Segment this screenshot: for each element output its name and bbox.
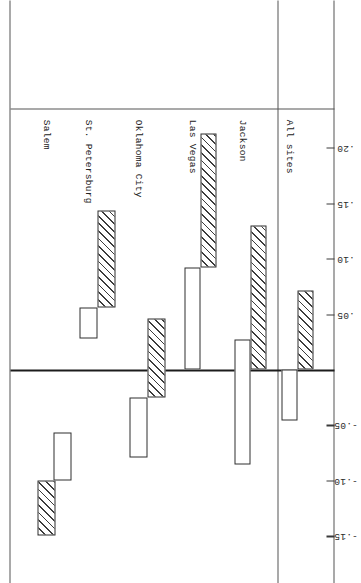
axis-tick-label: .20 (331, 143, 361, 154)
bar-hatched-las-vegas (200, 133, 216, 267)
category-label-st-petersburg: St. Petersburg (83, 119, 94, 203)
category-label-las-vegas: Las Vegas (187, 119, 198, 173)
value-axis-spine (10, 108, 334, 109)
bar-open-las-vegas (184, 267, 200, 369)
category-label-all-sites: All sites (284, 119, 295, 173)
category-label-oklahoma-city: Oklahoma City (133, 119, 144, 197)
frame-rule-right (9, 0, 10, 583)
bar-hatched-all-sites (297, 290, 313, 369)
frame-rule-left (333, 0, 334, 583)
axis-tick-label: .15 (331, 198, 361, 209)
group-separator (277, 0, 278, 583)
axis-tick-label: -.15 (331, 531, 361, 542)
bar-open-salem (53, 432, 71, 480)
category-label-jackson: Jackson (237, 119, 248, 161)
category-label-salem: Salem (41, 119, 52, 149)
bar-open-jackson (234, 339, 250, 464)
bar-hatched-oklahoma-city (147, 318, 165, 397)
axis-tick-label: .10 (331, 254, 361, 265)
axis-tick-label: -.05 (331, 420, 361, 431)
bar-open-all-sites (281, 369, 297, 420)
bar-hatched-st-petersburg (97, 210, 115, 307)
bar-hatched-salem (37, 480, 55, 535)
axis-tick-label: -.10 (331, 475, 361, 486)
axis-tick-label: .05 (331, 309, 361, 320)
bar-open-oklahoma-city (129, 397, 147, 457)
bar-hatched-jackson (250, 225, 266, 369)
bar-open-st-petersburg (79, 307, 97, 338)
